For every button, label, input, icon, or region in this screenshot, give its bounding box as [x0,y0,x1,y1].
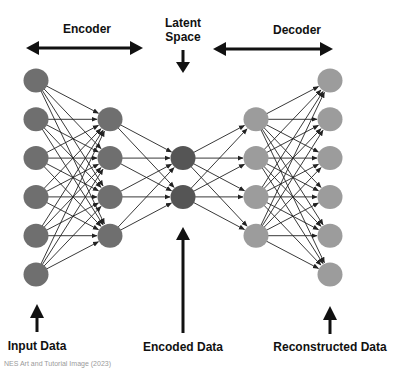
edge-input-5-to-hidden-encoder-1 [41,169,103,266]
decoder-span-arrow [213,42,333,56]
edge-latent-1-to-hidden-decoder-0 [190,129,247,190]
edge-latent-0-to-hidden-decoder-2 [192,163,245,191]
edge-hidden-decoder-2-to-output-0 [261,91,323,188]
node-hidden-encoder-2 [98,146,123,170]
edge-input-0-to-hidden-encoder-2 [41,89,103,186]
node-hidden-decoder-3 [244,185,269,209]
node-hidden-encoder-3 [98,185,123,209]
input-up-arrow [30,304,44,332]
latent-space-label-line2: Space [165,30,201,44]
node-hidden-encoder-4 [98,224,123,248]
node-hidden-encoder-1 [98,107,123,131]
node-hidden-decoder-4 [244,224,269,248]
edge-hidden-decoder-3-to-output-3 [265,203,319,231]
edge-hidden-decoder-1-to-output-0 [263,90,321,151]
encoded-up-arrow [176,227,190,333]
node-output-2 [318,107,343,131]
edge-hidden-decoder-2-to-output-5 [263,204,321,265]
encoder-label: Encoder [63,22,111,36]
edge-hidden-decoder-0-to-output-2 [265,124,319,152]
node-latent-1 [171,146,196,170]
node-output-3 [318,146,343,170]
reconstructed-data-label: Reconstructed Data [273,340,387,354]
node-output-5 [318,224,343,248]
edge-input-5-to-hidden-encoder-3 [45,242,99,270]
edge-hidden-decoder-3-to-output-1 [261,130,323,227]
edge-latent-0-to-hidden-decoder-3 [190,165,247,226]
latent-space-label-line1: Latent [165,16,201,30]
input-data-label: Input Data [8,339,67,353]
node-input-2 [24,107,49,131]
reconstructed-up-arrow [323,306,337,334]
edge-input-1-to-hidden-encoder-3 [41,128,103,225]
edge-hidden-encoder-0-to-latent-0 [119,124,172,152]
encoded-data-label: Encoded Data [143,340,223,354]
encoder-span-arrow [26,41,143,55]
node-hidden-decoder-1 [244,107,269,131]
edge-latent-1-to-hidden-decoder-1 [192,164,245,192]
image-caption: NES Art and Tutorial Image (2023) [4,360,111,368]
edge-input-4-to-hidden-encoder-0 [41,130,103,227]
node-output-4 [318,185,343,209]
node-output-1 [318,69,343,93]
node-input-5 [24,224,49,248]
node-input-4 [24,185,49,209]
node-input-1 [24,69,49,93]
decoder-label: Decoder [273,23,321,37]
edge-input-0-to-hidden-encoder-0 [45,85,99,113]
node-hidden-decoder-2 [244,146,269,170]
autoencoder-diagram: Encoder Latent Space Decoder Input Data … [0,0,401,370]
latent-down-arrow [176,50,190,73]
edge-hidden-encoder-3-to-latent-1 [119,203,172,231]
node-input-3 [24,146,49,170]
node-input-6 [24,263,49,287]
node-latent-2 [171,185,196,209]
node-output-6 [318,263,343,287]
